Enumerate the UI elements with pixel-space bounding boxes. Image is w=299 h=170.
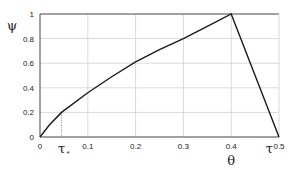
- x-tick-label: 0.2: [130, 142, 142, 151]
- x-tick-label: 0.4: [226, 142, 238, 151]
- tau-star-subscript: *: [67, 149, 70, 158]
- line-chart: 00.10.20.30.40.500.20.40.60.81τ*ψθτ: [0, 0, 299, 170]
- x-tick-label: 0.5: [273, 142, 285, 151]
- tau-star-label: τ: [58, 141, 65, 156]
- y-tick-label: 0.6: [23, 59, 35, 68]
- y-tick-label: 0.2: [23, 108, 35, 117]
- y-tick-label: 1: [30, 10, 35, 19]
- x-axis-label: θ: [227, 153, 235, 168]
- x-tick-label: 0.3: [178, 142, 190, 151]
- x-tick-label: 0: [38, 142, 43, 151]
- y-tick-label: 0.8: [23, 35, 35, 44]
- x-tick-label: 0.1: [82, 142, 94, 151]
- y-tick-label: 0.4: [23, 84, 35, 93]
- y-tick-label: 0: [30, 133, 35, 142]
- y-axis-label: ψ: [7, 18, 17, 33]
- tau-label: τ: [266, 141, 273, 156]
- series-line: [40, 14, 279, 137]
